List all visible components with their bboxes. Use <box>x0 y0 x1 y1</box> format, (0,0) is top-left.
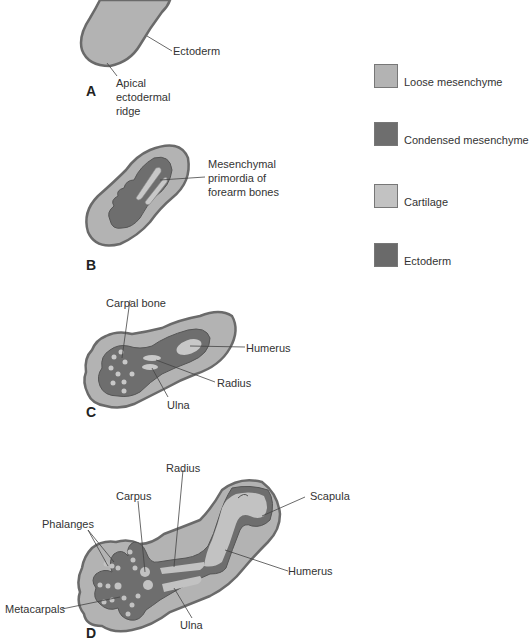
label-d-ulna: Ulna <box>180 618 203 632</box>
panel-letter-a: A <box>86 83 96 99</box>
swatch-cartilage <box>374 184 398 208</box>
label-c-radius: Radius <box>217 376 251 390</box>
label-c-humerus: Humerus <box>246 341 291 355</box>
label-a-apical-ectodermal-ridge: Apical ectodermal ridge <box>116 76 170 118</box>
label-a-ectoderm: Ectoderm <box>173 44 220 58</box>
legend-label: Loose mesenchyme <box>404 76 502 88</box>
panel-letter-b: B <box>86 257 96 273</box>
panel-letter-c: C <box>86 404 96 420</box>
label-d-scapula: Scapula <box>310 489 350 503</box>
limb-development-diagram <box>0 0 529 643</box>
label-d-carpus: Carpus <box>116 489 151 503</box>
legend-label: Ectoderm <box>404 255 451 267</box>
label-c-carpal-bone: Carpal bone <box>106 296 166 310</box>
label-c-ulna: Ulna <box>167 398 190 412</box>
swatch-loose-mesenchyme <box>374 64 398 88</box>
panel-a-limb-bud <box>81 0 172 76</box>
label-d-humerus: Humerus <box>288 564 333 578</box>
swatch-condensed-mesenchyme <box>374 122 398 146</box>
label-b-mesenchymal-primordia: Mesenchymal primordia of forearm bones <box>208 157 279 199</box>
panel-c-limb <box>84 300 245 408</box>
legend-label: Condensed mesenchyme <box>404 134 529 146</box>
label-d-radius: Radius <box>166 461 200 475</box>
label-d-metacarpals: Metacarpals <box>5 602 65 616</box>
panel-letter-d: D <box>86 625 96 641</box>
panel-b-limb <box>86 146 205 246</box>
legend-label: Cartilage <box>404 196 448 208</box>
panel-d-limb <box>62 470 305 631</box>
swatch-ectoderm <box>374 243 398 267</box>
label-d-phalanges: Phalanges <box>42 517 94 531</box>
